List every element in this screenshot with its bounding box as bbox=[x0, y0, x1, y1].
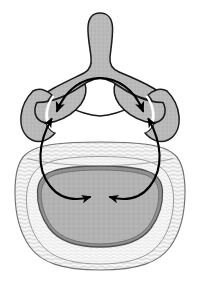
vertebra-diagram: Lumbar vertebra axial cross-section Tran… bbox=[0, 0, 200, 285]
figure-root: Lumbar vertebra axial cross-section Tran… bbox=[0, 0, 200, 285]
nucleus-pulposus bbox=[41, 170, 159, 244]
